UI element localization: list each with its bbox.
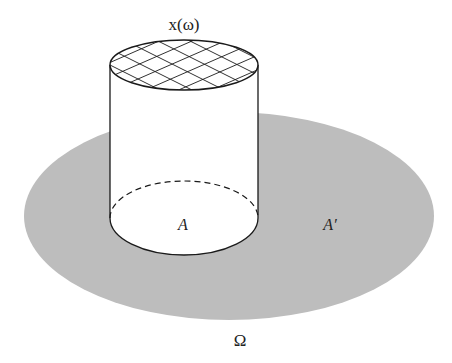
diagram-canvas: x(ω) A A′ Ω [0, 0, 452, 363]
region-a-label: A [177, 216, 188, 233]
region-a-complement-label: A′ [322, 216, 337, 233]
sample-space-label: Ω [234, 331, 247, 350]
function-label: x(ω) [168, 15, 199, 34]
